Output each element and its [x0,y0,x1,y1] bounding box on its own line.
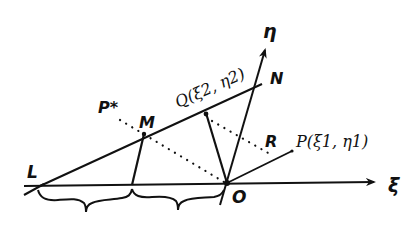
label-L: L [27,162,38,182]
segment-Q-O [206,113,227,183]
label-P: P(ξ1, η1) [295,132,368,151]
label-O: O [232,187,246,207]
xi-axis [24,182,374,186]
label-xi-axis: ξ [388,174,400,196]
point-O [224,180,230,186]
label-eta-axis: η [263,20,277,42]
label-R: R [265,132,277,151]
dotted-Q-R [212,121,270,154]
segment-O-P [227,151,292,183]
point-Q-foot [204,112,209,117]
label-P-star: P* [98,98,119,117]
brace-L-foot [38,189,132,212]
point-P [290,149,293,152]
label-N: N [270,69,284,88]
brace-foot-O [132,189,224,210]
label-Q: Q(ξ2, η2) [172,64,248,112]
line-LN [40,84,262,186]
label-M: M [139,113,155,132]
geometric-diagram: L M P* N R O ξ η Q(ξ2, η2) P(ξ1, η1) [0,0,416,230]
